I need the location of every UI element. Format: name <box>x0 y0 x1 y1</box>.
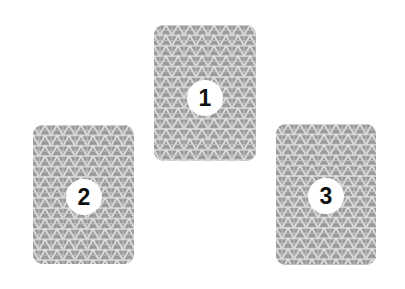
card-number: 1 <box>199 85 212 112</box>
card-number-badge: 3 <box>308 178 344 214</box>
card-number: 3 <box>320 183 333 210</box>
card-number-badge: 2 <box>66 179 102 215</box>
card-number: 2 <box>78 184 91 211</box>
card-2[interactable]: 2 <box>33 125 134 264</box>
card-3[interactable]: 3 <box>276 124 376 265</box>
card-number-badge: 1 <box>187 80 223 116</box>
card-1[interactable]: 1 <box>154 25 256 161</box>
